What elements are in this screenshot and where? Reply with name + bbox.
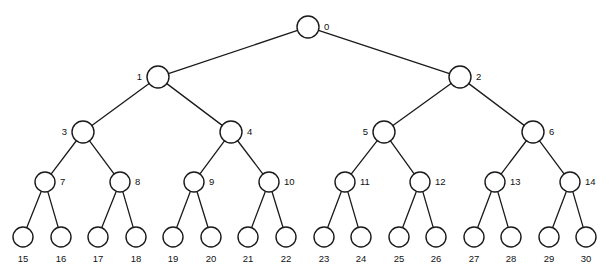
node-circle[interactable] (88, 227, 108, 247)
tree-node[interactable]: 23 (314, 227, 334, 264)
tree-edge (573, 192, 583, 228)
node-circle[interactable] (35, 172, 55, 192)
node-circle[interactable] (259, 172, 279, 192)
node-circle[interactable] (147, 66, 169, 88)
tree-node[interactable]: 4 (220, 121, 252, 143)
node-circle[interactable] (576, 227, 596, 247)
node-circle[interactable] (426, 227, 446, 247)
node-circle[interactable] (163, 227, 183, 247)
node-label: 7 (60, 176, 65, 187)
node-circle[interactable] (13, 227, 33, 247)
node-circle[interactable] (238, 227, 258, 247)
node-circle[interactable] (126, 227, 146, 247)
node-circle[interactable] (351, 227, 371, 247)
tree-node[interactable]: 21 (238, 227, 258, 264)
node-label: 11 (360, 176, 370, 187)
node-label: 23 (319, 253, 330, 264)
tree-edge (238, 141, 263, 174)
tree-node[interactable]: 14 (560, 172, 596, 192)
tree-node[interactable]: 1 (137, 66, 169, 88)
tree-node[interactable]: 12 (410, 172, 446, 192)
node-label: 28 (506, 253, 517, 264)
tree-node[interactable]: 11 (335, 172, 370, 192)
tree-edge (27, 191, 42, 227)
tree-edge (390, 141, 414, 174)
node-circle[interactable] (314, 227, 334, 247)
node-label: 2 (476, 71, 481, 82)
tree-node[interactable]: 2 (449, 66, 481, 88)
node-label: 13 (510, 176, 521, 187)
node-circle[interactable] (464, 227, 484, 247)
tree-edge (403, 191, 417, 227)
node-label: 30 (581, 253, 592, 264)
tree-edge (478, 191, 492, 227)
node-circle[interactable] (501, 227, 521, 247)
node-label: 27 (469, 253, 480, 264)
tree-node[interactable]: 9 (184, 172, 214, 192)
tree-node[interactable]: 24 (351, 227, 371, 264)
tree-node[interactable]: 10 (259, 172, 295, 192)
node-label: 17 (93, 253, 104, 264)
node-label: 14 (585, 176, 596, 187)
tree-edge (90, 141, 115, 174)
tree-node[interactable]: 18 (126, 227, 146, 264)
node-label: 19 (168, 253, 179, 264)
node-label: 1 (137, 71, 142, 82)
node-circle[interactable] (335, 172, 355, 192)
tree-edge (168, 30, 297, 73)
tree-edge (348, 192, 358, 228)
tree-node[interactable]: 6 (522, 121, 554, 143)
node-circle[interactable] (51, 227, 71, 247)
node-label: 6 (549, 126, 554, 137)
node-label: 20 (206, 253, 217, 264)
tree-edge (177, 191, 191, 227)
node-circle[interactable] (485, 172, 505, 192)
node-circle[interactable] (389, 227, 409, 247)
node-circle[interactable] (184, 172, 204, 192)
tree-node[interactable]: 25 (389, 227, 409, 264)
tree-node[interactable]: 15 (13, 227, 33, 264)
node-circle[interactable] (201, 227, 221, 247)
node-circle[interactable] (110, 172, 130, 192)
tree-node[interactable]: 29 (539, 227, 559, 264)
node-circle[interactable] (560, 172, 580, 192)
tree-node[interactable]: 17 (88, 227, 108, 264)
node-circle[interactable] (297, 16, 319, 38)
node-label: 10 (284, 176, 295, 187)
tree-node[interactable]: 7 (35, 172, 65, 192)
node-label: 12 (435, 176, 446, 187)
tree-node[interactable]: 22 (276, 227, 296, 264)
tree-node[interactable]: 3 (62, 121, 94, 143)
tree-edge (272, 192, 283, 228)
node-label: 5 (363, 126, 368, 137)
node-circle[interactable] (449, 66, 471, 88)
node-label: 3 (62, 126, 67, 137)
node-label: 26 (431, 253, 442, 264)
tree-node[interactable]: 19 (163, 227, 183, 264)
node-label: 15 (18, 253, 29, 264)
tree-edge (351, 141, 377, 174)
tree-edge (393, 83, 451, 125)
node-circle[interactable] (220, 121, 242, 143)
node-circle[interactable] (522, 121, 544, 143)
tree-edge (252, 191, 266, 227)
node-label: 29 (544, 253, 555, 264)
tree-node[interactable]: 16 (51, 227, 71, 264)
node-circle[interactable] (410, 172, 430, 192)
tree-node[interactable]: 30 (576, 227, 596, 264)
tree-node[interactable]: 13 (485, 172, 521, 192)
node-label: 8 (135, 176, 140, 187)
tree-node[interactable]: 0 (297, 16, 329, 38)
tree-node[interactable]: 8 (110, 172, 140, 192)
tree-node[interactable]: 27 (464, 227, 484, 264)
node-circle[interactable] (539, 227, 559, 247)
tree-node[interactable]: 5 (363, 121, 395, 143)
node-circle[interactable] (276, 227, 296, 247)
tree-edge (540, 141, 565, 174)
tree-node[interactable]: 26 (426, 227, 446, 264)
node-circle[interactable] (373, 121, 395, 143)
node-circle[interactable] (72, 121, 94, 143)
tree-node[interactable]: 20 (201, 227, 221, 264)
tree-node[interactable]: 28 (501, 227, 521, 264)
node-label: 25 (394, 253, 405, 264)
